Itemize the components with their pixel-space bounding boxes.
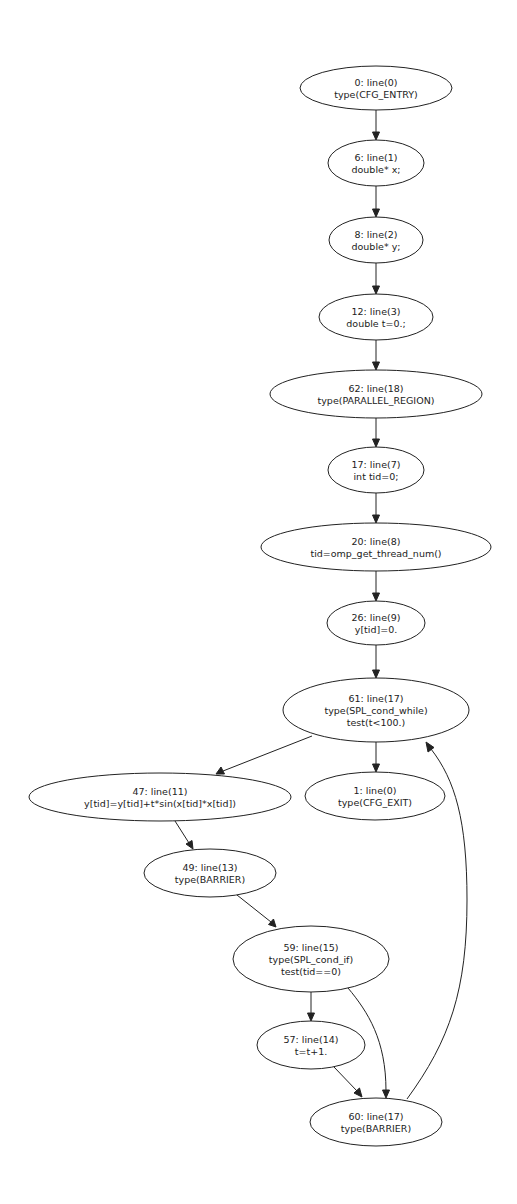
node-id-label: 61: line(17) — [349, 693, 404, 704]
arrowhead-icon — [373, 515, 380, 523]
edge-line — [334, 1067, 357, 1091]
edge-line — [237, 895, 271, 922]
node-61[interactable]: 61: line(17)type(SPL_cond_while)test(t<1… — [283, 678, 469, 742]
node-detail-label: y[tid]=y[tid]+t*sin(x[tid]*x[tid]) — [84, 798, 236, 809]
node-detail-label: type(CFG_EXIT) — [338, 797, 412, 808]
node-id-label: 59: line(15) — [284, 942, 339, 953]
node-id-label: 12: line(3) — [352, 306, 401, 317]
node-detail-label: int tid=0; — [353, 471, 398, 482]
node-detail-label: type(SPL_cond_while) — [324, 705, 427, 716]
node-detail-label: type(CFG_ENTRY) — [334, 89, 418, 100]
node-detail-label: type(PARALLEL_REGION) — [318, 395, 435, 406]
node-id-label: 60: line(17) — [349, 1111, 404, 1122]
arrowhead-icon — [308, 1013, 315, 1021]
arrowhead-icon — [373, 593, 380, 601]
node-id-label: 17: line(7) — [352, 459, 401, 470]
node-59[interactable]: 59: line(15)type(SPL_cond_if)test(tid==0… — [233, 926, 389, 992]
arrowhead-icon — [186, 841, 193, 850]
node-0[interactable]: 0: line(0)type(CFG_ENTRY) — [300, 66, 452, 110]
node-id-label: 6: line(1) — [355, 152, 398, 163]
node-detail-label: type(BARRIER) — [341, 1123, 411, 1134]
node-detail-label: test(tid==0) — [281, 966, 341, 977]
edge-line — [175, 821, 189, 843]
node-49[interactable]: 49: line(13)type(BARRIER) — [144, 849, 276, 897]
edge-0-to-6 — [373, 110, 380, 140]
edge-59-to-57 — [308, 992, 315, 1021]
nodes-layer: 0: line(0)type(CFG_ENTRY)6: line(1)doubl… — [29, 66, 491, 1146]
node-id-label: 26: line(9) — [352, 612, 401, 623]
arrowhead-icon — [373, 132, 380, 140]
node-id-label: 8: line(2) — [355, 229, 398, 240]
edge-17-to-20 — [373, 493, 380, 523]
edge-62-to-17 — [373, 418, 380, 447]
node-detail-label: type(BARRIER) — [175, 874, 245, 885]
arrowhead-icon — [383, 1090, 390, 1098]
node-id-label: 47: line(11) — [133, 786, 188, 797]
edge-line — [223, 736, 312, 771]
edge-12-to-62 — [373, 340, 380, 370]
node-12[interactable]: 12: line(3)double t=0.; — [319, 294, 433, 340]
node-detail-label: double* y; — [352, 241, 401, 252]
node-detail-label: t=t+1. — [295, 1046, 327, 1057]
edge-61-to-1 — [373, 742, 380, 772]
arrowhead-icon — [373, 670, 380, 678]
edge-49-to-59 — [237, 895, 276, 927]
edge-26-to-61 — [373, 645, 380, 678]
node-detail-label: y[tid]=0. — [355, 624, 397, 635]
node-detail-label: tid=omp_get_thread_num() — [310, 548, 441, 559]
node-1[interactable]: 1: line(0)type(CFG_EXIT) — [305, 772, 445, 820]
node-57[interactable]: 57: line(14)t=t+1. — [257, 1021, 365, 1069]
node-id-label: 20: line(8) — [352, 536, 401, 547]
node-62[interactable]: 62: line(18)type(PARALLEL_REGION) — [270, 370, 482, 418]
arrowhead-icon — [269, 919, 277, 927]
edge-47-to-49 — [175, 821, 193, 849]
node-26[interactable]: 26: line(9)y[tid]=0. — [327, 601, 425, 645]
node-detail-label: double* x; — [352, 164, 401, 175]
edge-57-to-60 — [334, 1067, 362, 1097]
arrowhead-icon — [426, 742, 434, 752]
edge-6-to-8 — [373, 186, 380, 217]
arrowhead-icon — [216, 767, 225, 774]
node-detail-label: type(SPL_cond_if) — [269, 954, 353, 965]
node-id-label: 57: line(14) — [284, 1034, 339, 1045]
edge-20-to-26 — [373, 571, 380, 601]
node-id-label: 62: line(18) — [349, 383, 404, 394]
arrowhead-icon — [373, 439, 380, 447]
node-id-label: 0: line(0) — [355, 77, 398, 88]
arrowhead-icon — [373, 209, 380, 217]
node-id-label: 49: line(13) — [183, 862, 238, 873]
node-detail-label: test(t<100.) — [347, 717, 406, 728]
node-6[interactable]: 6: line(1)double* x; — [328, 140, 424, 186]
node-detail-label: double t=0.; — [346, 318, 405, 329]
arrowhead-icon — [373, 286, 380, 294]
arrowhead-icon — [373, 362, 380, 370]
edge-61-to-47 — [216, 736, 312, 774]
arrowhead-icon — [373, 764, 380, 772]
node-20[interactable]: 20: line(8)tid=omp_get_thread_num() — [261, 523, 491, 571]
edge-8-to-12 — [373, 263, 380, 294]
node-47[interactable]: 47: line(11)y[tid]=y[tid]+t*sin(x[tid]*x… — [29, 773, 291, 821]
node-id-label: 1: line(0) — [354, 785, 397, 796]
node-17[interactable]: 17: line(7)int tid=0; — [328, 447, 424, 493]
node-8[interactable]: 8: line(2)double* y; — [329, 217, 423, 263]
node-60[interactable]: 60: line(17)type(BARRIER) — [310, 1098, 442, 1146]
control-flow-graph: 0: line(0)type(CFG_ENTRY)6: line(1)doubl… — [0, 0, 517, 1204]
